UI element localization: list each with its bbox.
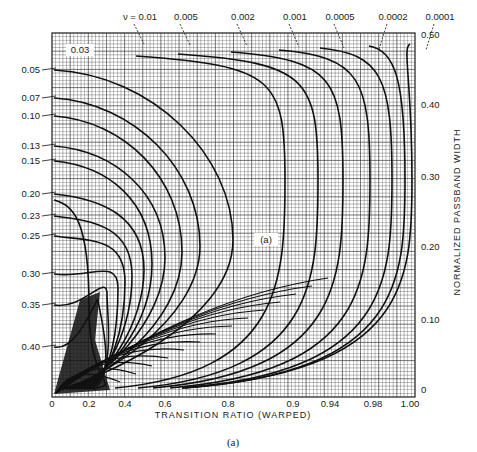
left-label-0.07: 0.07 <box>22 92 41 103</box>
left-label-0.10: 0.10 <box>22 110 41 121</box>
x-axis-title: TRANSITION RATIO (WARPED) <box>155 410 312 420</box>
x-tick-0.8: 0.8 <box>221 398 234 409</box>
left-label-0.25: 0.25 <box>22 230 41 241</box>
y-tick-0.10: 0.10 <box>421 314 440 325</box>
top-label-0: ν = 0.01 <box>123 11 157 22</box>
y-tick-0.30: 0.30 <box>421 171 440 182</box>
contour-chart: ν = 0.010.0050.0020.0010.00050.00020.000… <box>0 0 477 452</box>
left-label-0.30: 0.30 <box>22 268 41 279</box>
x-axis-ticks: 00.20.40.60.80.90.940.981.00 <box>49 398 419 409</box>
x-tick-0.4: 0.4 <box>118 398 131 409</box>
left-label-0.23: 0.23 <box>22 210 41 221</box>
top-label-4: 0.0005 <box>325 11 354 22</box>
top-label-1: 0.005 <box>174 11 198 22</box>
left-label-0.35: 0.35 <box>22 299 41 310</box>
x-tick-0: 0 <box>49 398 54 409</box>
y-axis-title: NORMALIZED PASSBAND WIDTH <box>452 129 462 296</box>
top-label-2: 0.002 <box>231 11 255 22</box>
x-tick-1.00: 1.00 <box>401 398 420 409</box>
x-tick-0.94: 0.94 <box>321 398 340 409</box>
x-tick-0.2: 0.2 <box>82 398 95 409</box>
left-label-0.15: 0.15 <box>22 155 41 166</box>
x-tick-0.9: 0.9 <box>286 398 299 409</box>
top-label-3: 0.001 <box>283 11 307 22</box>
curve-label-003: 0.03 <box>71 44 90 55</box>
top-label-5: 0.0002 <box>378 11 407 22</box>
graph-paper-grid <box>52 33 415 397</box>
figure-caption: (a) <box>227 436 240 449</box>
y-tick-0: 0 <box>421 384 426 395</box>
y-tick-0.50: 0.50 <box>421 29 440 40</box>
left-label-0.20: 0.20 <box>22 188 41 199</box>
left-curve-labels: 0.050.070.100.130.150.200.230.250.300.35… <box>22 64 41 352</box>
x-tick-0.98: 0.98 <box>364 398 383 409</box>
left-label-0.05: 0.05 <box>22 64 41 75</box>
left-label-0.13: 0.13 <box>22 140 41 151</box>
inner-label: (a) <box>260 234 272 245</box>
y-tick-0.40: 0.40 <box>421 99 440 110</box>
y-tick-0.20: 0.20 <box>421 241 440 252</box>
top-curve-labels: ν = 0.010.0050.0020.0010.00050.00020.000… <box>123 11 455 22</box>
left-label-0.40: 0.40 <box>22 341 41 352</box>
top-label-6: 0.0001 <box>425 11 454 22</box>
y-axis-ticks: 0.500.400.300.200.100 <box>421 29 440 395</box>
x-tick-0.6: 0.6 <box>158 398 171 409</box>
